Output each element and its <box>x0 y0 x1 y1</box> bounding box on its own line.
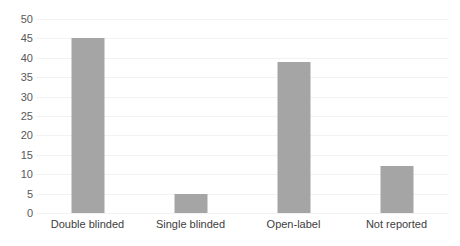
bars-layer <box>36 19 448 213</box>
bar-single-blinded[interactable] <box>174 194 207 213</box>
y-axis-tick-label: 5 <box>0 188 33 199</box>
y-axis-tick-label: 35 <box>0 72 33 83</box>
y-axis-tick-label: 15 <box>0 149 33 160</box>
bar-not-reported[interactable] <box>380 166 413 213</box>
y-axis-tick-label: 45 <box>0 33 33 44</box>
bar-chart: 50 45 40 35 30 25 20 15 10 5 0 Double bl… <box>0 0 460 246</box>
x-axis-tick-label-single-blinded: Single blinded <box>139 219 242 230</box>
x-axis-tick-label-not-reported: Not reported <box>345 219 448 230</box>
bar-slot <box>139 19 242 213</box>
bar-slot <box>36 19 139 213</box>
bar-slot <box>242 19 345 213</box>
gridline <box>36 213 448 214</box>
x-axis-tick-label-open-label: Open-label <box>242 219 345 230</box>
y-axis-tick-label: 25 <box>0 111 33 122</box>
x-axis-tick-label-double-blinded: Double blinded <box>36 219 139 230</box>
y-axis-tick-label: 20 <box>0 130 33 141</box>
bar-open-label[interactable] <box>277 62 310 213</box>
y-axis-tick-label: 40 <box>0 52 33 63</box>
y-axis-tick-label: 0 <box>0 208 33 219</box>
y-axis-tick-label: 10 <box>0 169 33 180</box>
bar-double-blinded[interactable] <box>71 38 104 213</box>
y-axis-tick-label: 30 <box>0 91 33 102</box>
bar-slot <box>345 19 448 213</box>
y-axis-tick-label: 50 <box>0 14 33 25</box>
